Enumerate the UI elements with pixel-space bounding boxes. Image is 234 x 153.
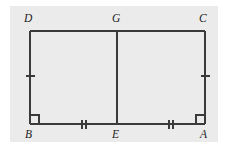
right-angle-marker-b: [30, 115, 39, 124]
segments-group: [30, 31, 205, 124]
vertex-label-a: A: [200, 129, 207, 141]
vertex-label-c: C: [199, 13, 207, 25]
vertex-label-e: E: [112, 129, 119, 141]
right-angle-marker-a: [196, 115, 205, 124]
vertex-label-g: G: [112, 13, 120, 25]
geometry-figure-root: DGCBEA: [0, 0, 234, 153]
vertex-label-b: B: [25, 129, 32, 141]
vertex-label-d: D: [24, 13, 32, 25]
